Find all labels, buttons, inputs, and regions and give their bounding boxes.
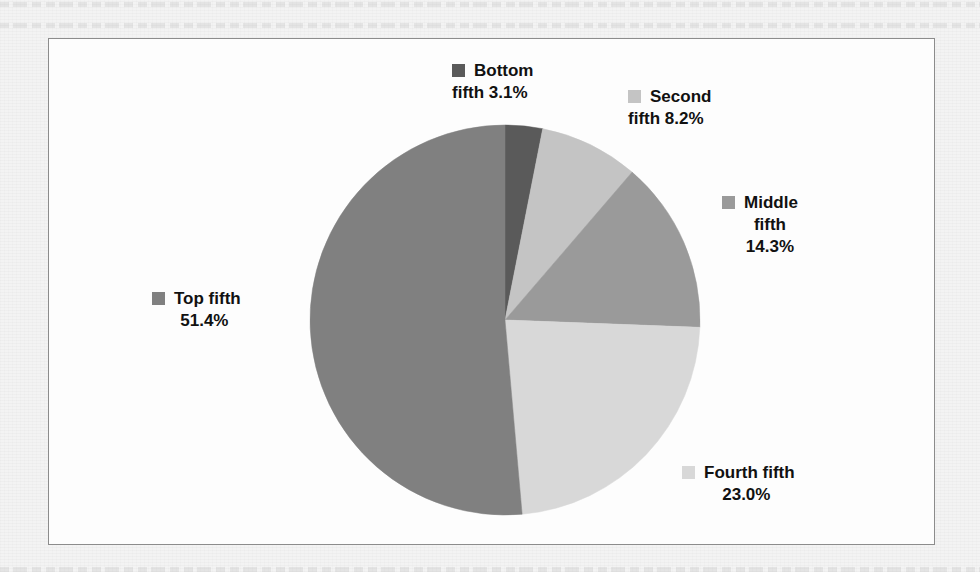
pie-label-second-fifth: Second fifth 8.2% [628, 86, 718, 130]
pie-label-bottom-fifth: Bottom fifth 3.1% [452, 60, 546, 104]
pie-label-bottom-fifth-line1: Bottom [474, 61, 533, 80]
legend-swatch-bottom-fifth [452, 64, 465, 77]
pie-label-top-fifth-line1: Top fifth [174, 289, 241, 308]
pie-label-fourth-fifth: Fourth fifth 23.0% [682, 462, 795, 506]
pie-label-middle-fifth-line1: Middle [744, 193, 798, 212]
pie-label-bottom-fifth-line2: fifth 3.1% [452, 82, 546, 104]
pie-label-fourth-fifth-line1: Fourth fifth [704, 463, 795, 482]
pie-label-top-fifth-line2: 51.4% [152, 310, 241, 332]
legend-swatch-middle-fifth [722, 196, 735, 209]
pie-label-second-fifth-line1: Second [650, 87, 711, 106]
pie-label-middle-fifth-line2: fifth [722, 214, 798, 236]
pie-label-middle-fifth: Middle fifth 14.3% [722, 192, 798, 257]
legend-swatch-fourth-fifth [682, 466, 695, 479]
legend-swatch-top-fifth [152, 292, 165, 305]
pie-label-second-fifth-line2: fifth 8.2% [628, 108, 718, 130]
pie-label-fourth-fifth-line2: 23.0% [682, 484, 795, 506]
pie-label-top-fifth: Top fifth 51.4% [152, 288, 241, 332]
pie-label-middle-fifth-line3: 14.3% [722, 236, 798, 258]
legend-swatch-second-fifth [628, 90, 641, 103]
